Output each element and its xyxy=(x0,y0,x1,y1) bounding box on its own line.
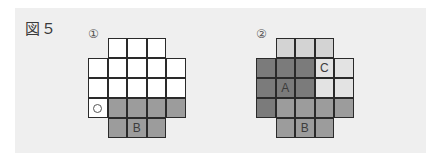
grid-cell xyxy=(108,98,128,118)
grid-cell xyxy=(295,78,315,98)
grid-cell xyxy=(315,38,335,58)
grid-cell xyxy=(147,38,167,58)
grid-cell xyxy=(276,58,296,78)
grid-cell: C xyxy=(315,58,335,78)
grid-cell xyxy=(108,38,128,58)
panel-2-number: ② xyxy=(256,28,267,40)
grid-cell xyxy=(127,98,147,118)
cell-label: B xyxy=(301,121,309,135)
grid-cell xyxy=(108,78,128,98)
grid-cell xyxy=(88,58,108,78)
grid-cell xyxy=(166,98,186,118)
cell-label: B xyxy=(133,121,141,135)
grid-cell: B xyxy=(295,118,315,138)
grid-cell xyxy=(127,58,147,78)
grid-cell xyxy=(334,58,354,78)
grid-cell xyxy=(295,38,315,58)
grid-cell xyxy=(88,78,108,98)
grid-cell xyxy=(334,78,354,98)
grid-cell xyxy=(108,118,128,138)
grid-cell xyxy=(295,98,315,118)
grid-cell xyxy=(147,58,167,78)
grid-cell xyxy=(295,58,315,78)
grid-cell xyxy=(256,58,276,78)
grid-cell xyxy=(276,98,296,118)
cell-label: C xyxy=(320,61,329,75)
grid-cell xyxy=(147,98,167,118)
grid-cell xyxy=(256,78,276,98)
grid-cell xyxy=(147,78,167,98)
grid-cell xyxy=(276,118,296,138)
grid-cell xyxy=(127,38,147,58)
grid-cell xyxy=(334,98,354,118)
grid-cell xyxy=(315,78,335,98)
grid-cell xyxy=(108,58,128,78)
grid-cell xyxy=(315,98,335,118)
grid-cell xyxy=(147,118,167,138)
cell-label: A xyxy=(281,81,289,95)
grid-cell xyxy=(256,98,276,118)
grid-cell xyxy=(88,98,108,118)
figure-title: 図５ xyxy=(25,17,57,38)
grid-cell xyxy=(127,78,147,98)
grid-cell: A xyxy=(276,78,296,98)
circle-icon xyxy=(93,104,102,113)
grid-cell: B xyxy=(127,118,147,138)
grid-cell xyxy=(276,38,296,58)
grid-cell xyxy=(166,78,186,98)
figure-panel xyxy=(15,8,426,153)
panel-1-number: ① xyxy=(88,28,99,40)
grid-cell xyxy=(166,58,186,78)
grid-cell xyxy=(315,118,335,138)
